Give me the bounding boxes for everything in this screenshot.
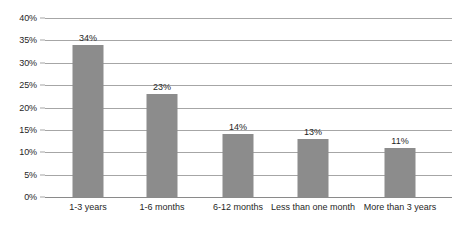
x-axis: 1-3 years1-6 months6-12 monthsLess than … [45,201,452,245]
y-tick-label: 40% [19,13,37,23]
y-tick-label: 25% [19,80,37,90]
bar-column: 34% [73,45,104,197]
x-category-label: More than 3 years [357,201,443,213]
y-tick-label: 30% [19,58,37,68]
bar-column: 13% [298,139,329,197]
bar-value-label: 13% [304,127,322,137]
y-tick-label: 20% [19,103,37,113]
bar [298,139,329,197]
y-axis: 40%35%30%25%20%15%10%5%0% [0,18,45,197]
y-tick-label: 0% [24,192,37,202]
y-tick-label: 5% [24,170,37,180]
y-tick-label: 35% [19,35,37,45]
x-category-label: Less than one month [270,201,356,213]
bar-column: 11% [385,148,416,197]
x-category-label: 1-6 months [119,201,205,213]
bar [385,148,416,197]
bar-chart: 40%35%30%25%20%15%10%5%0% 34%23%14%13%11… [0,0,452,250]
bar-series: 34%23%14%13%11% [45,18,452,197]
bar-value-label: 11% [391,136,408,146]
y-tick-label: 10% [19,147,37,157]
bar-column: 14% [223,134,254,197]
bar [223,134,254,197]
bar-value-label: 23% [153,82,171,92]
x-category-label: 6-12 months [195,201,281,213]
bar [147,94,178,197]
axis-baseline [45,197,452,198]
y-tick-label: 15% [19,125,37,135]
bar-value-label: 34% [79,33,97,43]
bar [73,45,104,197]
bar-value-label: 14% [229,122,247,132]
bar-column: 23% [147,94,178,197]
